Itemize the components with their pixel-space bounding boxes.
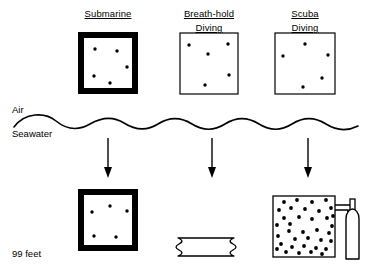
diagram-artwork — [0, 0, 375, 268]
breathhold-surface-container — [180, 33, 238, 94]
submarine-depth-container — [78, 189, 138, 251]
sea-surface-wave — [14, 115, 358, 130]
depth-arrow-breathhold — [208, 138, 216, 178]
pressure-depth-diagram: Submarine Breath-hold Diving Scuba Divin… — [0, 0, 375, 268]
depth-arrow-submarine — [104, 138, 112, 178]
scuba-tank — [335, 199, 359, 259]
depth-arrow-scuba — [304, 138, 312, 178]
breathhold-depth-container — [176, 238, 236, 256]
submarine-surface-container — [78, 32, 138, 94]
scuba-surface-container — [275, 33, 335, 94]
